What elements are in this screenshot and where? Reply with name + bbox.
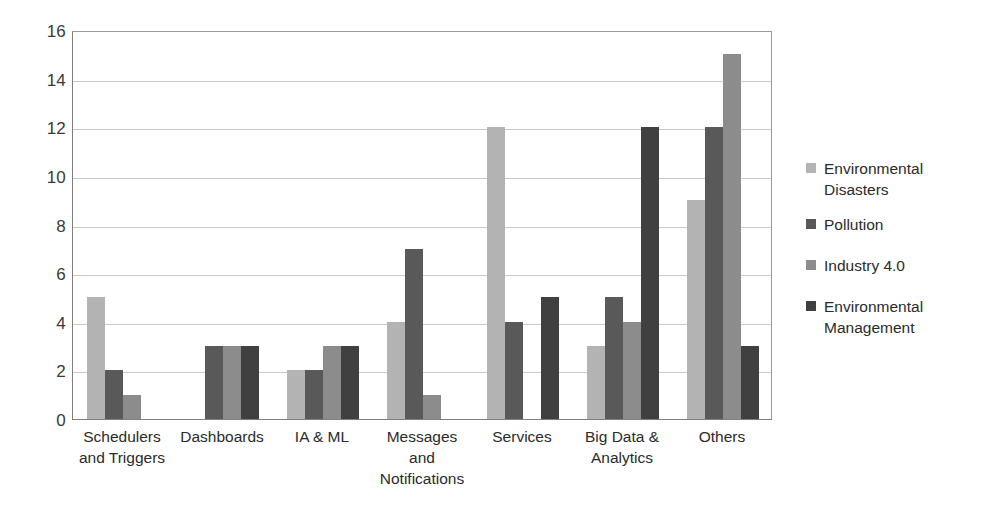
x-axis-category-labels: Schedulersand TriggersDashboardsIA & MLM… [72,426,772,518]
bar[interactable] [323,346,341,419]
y-axis-tick-label: 2 [8,363,66,380]
bar[interactable] [505,322,523,419]
legend-label: Environmental [824,158,978,179]
legend-swatch-icon [806,301,816,311]
legend-item[interactable]: Industry 4.0 [806,255,978,276]
legend-label: Environmental [824,296,978,317]
bar-group [687,32,759,419]
legend: EnvironmentalDisastersPollutionIndustry … [806,158,978,352]
x-axis-category-label-line: Analytics [572,447,672,468]
legend-label: Management [824,317,978,338]
y-axis-tick-label: 14 [8,71,66,88]
bar-chart: 1614121086420 Schedulersand TriggersDash… [0,0,983,518]
bar[interactable] [641,127,659,419]
legend-label: Industry 4.0 [824,255,978,276]
x-axis-category-label-line: IA & ML [272,426,372,447]
x-axis-category-label-line: and Triggers [72,447,172,468]
x-axis-category-label-line: Others [672,426,772,447]
bar-group [387,32,459,419]
x-axis-category-label: MessagesandNotifications [372,426,472,489]
x-axis-category-label-line: Notifications [372,468,472,489]
bar-group [287,32,359,419]
y-axis-tick-label: 0 [8,412,66,429]
bar-group [187,32,259,419]
bar[interactable] [105,370,123,419]
y-axis-tick-label: 4 [8,314,66,331]
bar[interactable] [341,346,359,419]
y-axis: 1614121086420 [0,31,66,420]
x-axis-category-label-line: Big Data & [572,426,672,447]
bar-group [87,32,159,419]
bar[interactable] [287,370,305,419]
bar[interactable] [223,346,241,419]
bar[interactable] [587,346,605,419]
bar[interactable] [741,346,759,419]
y-axis-tick-label: 16 [8,23,66,40]
x-axis-category-label-line: and [372,447,472,468]
bar[interactable] [705,127,723,419]
legend-swatch-icon [806,219,816,229]
bar[interactable] [723,54,741,419]
legend-item[interactable]: EnvironmentalManagement [806,296,978,338]
x-axis-category-label-line: Schedulers [72,426,172,447]
x-axis-category-label: Schedulersand Triggers [72,426,172,468]
x-axis-category-label: Dashboards [172,426,272,447]
legend-swatch-icon [806,163,816,173]
bar[interactable] [405,249,423,419]
plot-area [72,31,772,420]
x-axis-category-label-line: Services [472,426,572,447]
bar[interactable] [487,127,505,419]
bar[interactable] [205,346,223,419]
bar[interactable] [241,346,259,419]
x-axis-category-label: Big Data &Analytics [572,426,672,468]
bar[interactable] [123,395,141,419]
y-axis-tick-label: 6 [8,266,66,283]
bars-layer [73,32,771,419]
y-axis-tick-label: 8 [8,217,66,234]
x-axis-category-label-line: Dashboards [172,426,272,447]
bar[interactable] [541,297,559,419]
x-axis-category-label: Services [472,426,572,447]
bar-group [487,32,559,419]
legend-swatch-icon [806,260,816,270]
bar[interactable] [87,297,105,419]
x-axis-category-label: IA & ML [272,426,372,447]
legend-item[interactable]: EnvironmentalDisasters [806,158,978,200]
bar-group [587,32,659,419]
legend-item[interactable]: Pollution [806,214,978,235]
x-axis-category-label-line: Messages [372,426,472,447]
bar[interactable] [305,370,323,419]
legend-label: Pollution [824,214,978,235]
legend-label: Disasters [824,179,978,200]
bar[interactable] [387,322,405,419]
y-axis-tick-label: 12 [8,120,66,137]
bar[interactable] [423,395,441,419]
x-axis-category-label: Others [672,426,772,447]
bar[interactable] [605,297,623,419]
bar[interactable] [623,322,641,419]
bar[interactable] [687,200,705,419]
y-axis-tick-label: 10 [8,168,66,185]
